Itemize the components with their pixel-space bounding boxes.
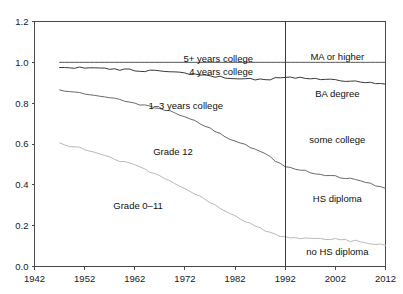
chart-canvas: 0.00.20.40.60.81.01.2 194219521962197219… bbox=[0, 0, 403, 294]
x-tick-label: 1942 bbox=[24, 273, 45, 284]
x-tick-label: 1972 bbox=[174, 273, 195, 284]
curve-annotations: 5+ years college4 years college1–3 years… bbox=[113, 51, 369, 257]
annotation-1-3-years-college: 1–3 years college bbox=[148, 100, 222, 111]
annotation-some-college: some college bbox=[309, 134, 365, 145]
x-tick-label: 1962 bbox=[124, 273, 145, 284]
x-tick-label: 1952 bbox=[74, 273, 95, 284]
x-tick-label: 1982 bbox=[225, 273, 246, 284]
annotation-ba-degree: BA degree bbox=[315, 88, 359, 99]
annotation-grade-12: Grade 12 bbox=[153, 146, 193, 157]
x-axis-ticks: 19421952196219721982199220022012 bbox=[24, 267, 396, 284]
annotation-ma-or-higher: MA or higher bbox=[310, 51, 364, 62]
annotation-hs-diploma: HS diploma bbox=[313, 193, 363, 204]
education-attainment-chart: 0.00.20.40.60.81.01.2 194219521962197219… bbox=[0, 0, 403, 294]
annotation-4-years-college: 4 years college bbox=[189, 66, 253, 77]
x-tick-label: 1992 bbox=[275, 273, 296, 284]
y-tick-label: 0.0 bbox=[15, 261, 28, 272]
annotation-grade-0-11: Grade 0–11 bbox=[113, 200, 162, 211]
y-tick-label: 0.2 bbox=[15, 220, 28, 231]
y-axis-ticks: 0.00.20.40.60.81.01.2 bbox=[15, 16, 34, 272]
x-tick-label: 2012 bbox=[375, 273, 396, 284]
annotation-5-years-college: 5+ years college bbox=[184, 53, 253, 64]
y-tick-label: 0.4 bbox=[15, 179, 28, 190]
y-tick-label: 1.2 bbox=[15, 16, 28, 27]
x-tick-label: 2002 bbox=[325, 273, 346, 284]
y-tick-label: 0.8 bbox=[15, 98, 28, 109]
y-tick-label: 0.6 bbox=[15, 138, 28, 149]
y-tick-label: 1.0 bbox=[15, 57, 28, 68]
annotation-no-hs-diploma: no HS diploma bbox=[306, 246, 369, 257]
